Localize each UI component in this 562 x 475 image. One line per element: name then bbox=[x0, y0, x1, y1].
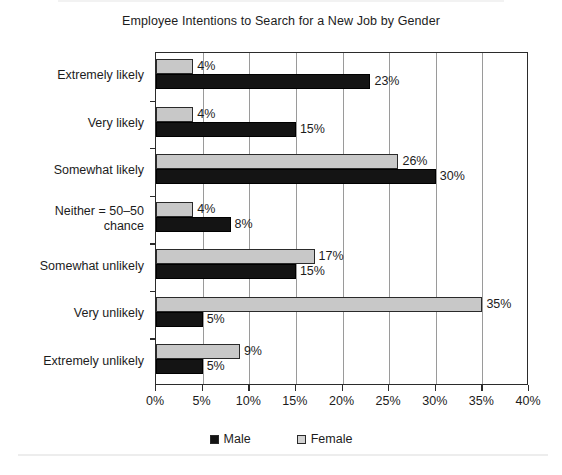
bar-female bbox=[156, 344, 240, 359]
bar-male bbox=[156, 359, 203, 374]
legend-label: Female bbox=[311, 432, 353, 446]
bar-group: 26%30% bbox=[156, 148, 527, 196]
bar-group: 9%5% bbox=[156, 338, 527, 386]
y-axis-category-label: Very likely bbox=[6, 116, 144, 131]
y-axis-category-label: Somewhat likely bbox=[6, 163, 144, 178]
y-axis-label-line: Somewhat likely bbox=[6, 163, 144, 178]
bar-male bbox=[156, 312, 203, 327]
y-axis-category-label: Very unlikely bbox=[6, 306, 144, 321]
bar-female bbox=[156, 202, 193, 217]
bar-female bbox=[156, 297, 482, 312]
x-axis-tick bbox=[528, 385, 529, 391]
x-axis-tick-label: 15% bbox=[282, 394, 307, 408]
y-axis-category-label: Extremely unlikely bbox=[6, 354, 144, 369]
page-edge-bottom bbox=[18, 454, 548, 456]
x-axis-tick-label: 40% bbox=[515, 394, 540, 408]
bar-male bbox=[156, 122, 296, 137]
legend-swatch-icon bbox=[210, 435, 219, 444]
bar-value-label: 9% bbox=[244, 344, 262, 359]
chart-legend: MaleFemale bbox=[0, 432, 562, 446]
x-axis-tick-label: 0% bbox=[146, 394, 164, 408]
bar-female bbox=[156, 107, 193, 122]
x-axis-tick bbox=[248, 385, 249, 391]
bar-female bbox=[156, 249, 315, 264]
bar-value-label: 30% bbox=[440, 169, 465, 184]
y-axis-label-line: Very unlikely bbox=[6, 306, 144, 321]
bar-value-label: 4% bbox=[197, 107, 215, 122]
chart-title: Employee Intentions to Search for a New … bbox=[0, 14, 562, 28]
y-axis-category-label: Extremely likely bbox=[6, 68, 144, 83]
y-axis-label-line: Very likely bbox=[6, 116, 144, 131]
y-axis-tick bbox=[150, 196, 156, 197]
bar-group: 4%8% bbox=[156, 196, 527, 244]
legend-swatch-icon bbox=[297, 435, 306, 444]
legend-label: Male bbox=[224, 432, 251, 446]
bar-female bbox=[156, 59, 193, 74]
x-axis-tick bbox=[155, 385, 156, 391]
bar-group: 4%15% bbox=[156, 101, 527, 149]
bar-value-label: 8% bbox=[235, 217, 253, 232]
bar-male bbox=[156, 264, 296, 279]
y-axis-tick bbox=[150, 243, 156, 244]
bar-male bbox=[156, 217, 231, 232]
y-axis-label-line: Extremely unlikely bbox=[6, 354, 144, 369]
bar-male bbox=[156, 169, 436, 184]
x-axis-tick bbox=[342, 385, 343, 391]
legend-item-female[interactable]: Female bbox=[297, 432, 353, 446]
y-axis-category-label: Somewhat unlikely bbox=[6, 259, 144, 274]
y-axis-tick bbox=[150, 291, 156, 292]
x-axis-tick-label: 5% bbox=[193, 394, 211, 408]
legend-item-male[interactable]: Male bbox=[210, 432, 251, 446]
x-axis-tick bbox=[481, 385, 482, 391]
y-axis-label-line: chance bbox=[6, 219, 144, 234]
bar-value-label: 26% bbox=[402, 154, 427, 169]
bar-value-label: 35% bbox=[486, 297, 511, 312]
x-axis-tick bbox=[388, 385, 389, 391]
y-axis-label-line: Somewhat unlikely bbox=[6, 259, 144, 274]
y-axis-label-line: Neither = 50–50 bbox=[6, 204, 144, 219]
y-axis-tick bbox=[150, 338, 156, 339]
bar-female bbox=[156, 154, 398, 169]
bar-value-label: 15% bbox=[300, 264, 325, 279]
bar-value-label: 4% bbox=[197, 59, 215, 74]
bar-group: 4%23% bbox=[156, 53, 527, 101]
bar-value-label: 15% bbox=[300, 122, 325, 137]
gridline bbox=[529, 53, 530, 384]
bar-value-label: 17% bbox=[319, 249, 344, 264]
x-axis-tick bbox=[435, 385, 436, 391]
y-axis-label-line: Extremely likely bbox=[6, 68, 144, 83]
y-axis-category-label: Neither = 50–50chance bbox=[6, 204, 144, 234]
y-axis-tick bbox=[150, 101, 156, 102]
bar-group: 17%15% bbox=[156, 243, 527, 291]
page-edge-top bbox=[58, 0, 504, 2]
chart-figure: Employee Intentions to Search for a New … bbox=[0, 0, 562, 475]
x-axis-tick bbox=[295, 385, 296, 391]
bar-value-label: 4% bbox=[197, 202, 215, 217]
bar-value-label: 23% bbox=[374, 74, 399, 89]
bar-value-label: 5% bbox=[207, 312, 225, 327]
y-axis-tick bbox=[150, 148, 156, 149]
x-axis-tick bbox=[202, 385, 203, 391]
bar-value-label: 5% bbox=[207, 359, 225, 374]
x-axis-ticks bbox=[155, 385, 528, 392]
y-axis-labels: Extremely likelyVery likelySomewhat like… bbox=[8, 52, 150, 385]
x-axis-tick-label: 20% bbox=[329, 394, 354, 408]
x-axis-labels: 0%5%10%15%20%25%30%35%40% bbox=[155, 394, 528, 412]
bar-male bbox=[156, 74, 370, 89]
bar-group: 35%5% bbox=[156, 291, 527, 339]
plot-area: 4%23%4%15%26%30%4%8%17%15%35%5%9%5% bbox=[155, 52, 528, 385]
x-axis-tick-label: 35% bbox=[469, 394, 494, 408]
x-axis-tick-label: 10% bbox=[236, 394, 261, 408]
x-axis-tick-label: 25% bbox=[376, 394, 401, 408]
x-axis-tick-label: 30% bbox=[422, 394, 447, 408]
